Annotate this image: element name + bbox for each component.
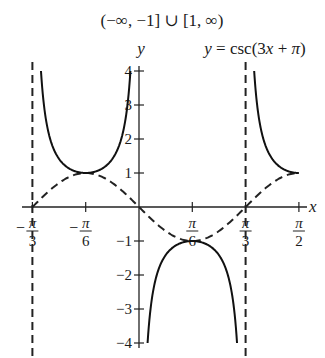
- svg-text:2: 2: [295, 233, 303, 249]
- x-tick-label: π6: [186, 215, 198, 249]
- y-tick-label: −4: [116, 335, 132, 351]
- svg-text:−: −: [69, 219, 78, 236]
- svg-text:π: π: [189, 215, 197, 231]
- svg-text:6: 6: [82, 233, 90, 249]
- svg-text:−: −: [16, 219, 25, 236]
- y-tick-label: −1: [116, 233, 132, 249]
- x-axis-label: x: [308, 197, 317, 216]
- y-axis-label: y: [135, 39, 145, 58]
- x-tick-label: −π6: [69, 215, 92, 249]
- x-tick-label: π2: [293, 215, 305, 249]
- axes: xy: [22, 39, 317, 348]
- y-tick-label: −2: [116, 267, 132, 283]
- y-tick-label: 4: [125, 63, 133, 79]
- y-tick-label: 1: [125, 165, 133, 181]
- svg-text:π: π: [82, 215, 90, 231]
- csc-branch: [41, 71, 130, 173]
- y-tick-label: 2: [125, 131, 133, 147]
- csc-branch: [148, 241, 237, 343]
- csc-branch: [254, 71, 299, 173]
- graph: (−∞, −1] ∪ [1, ∞) y = csc(3x + π) xy −π3…: [0, 0, 325, 358]
- x-tick-label: −π3: [16, 215, 39, 249]
- svg-text:π: π: [295, 215, 303, 231]
- equation-label: y = csc(3x + π): [202, 39, 305, 58]
- range-label: (−∞, −1] ∪ [1, ∞): [101, 11, 224, 30]
- y-tick-label: −3: [116, 301, 132, 317]
